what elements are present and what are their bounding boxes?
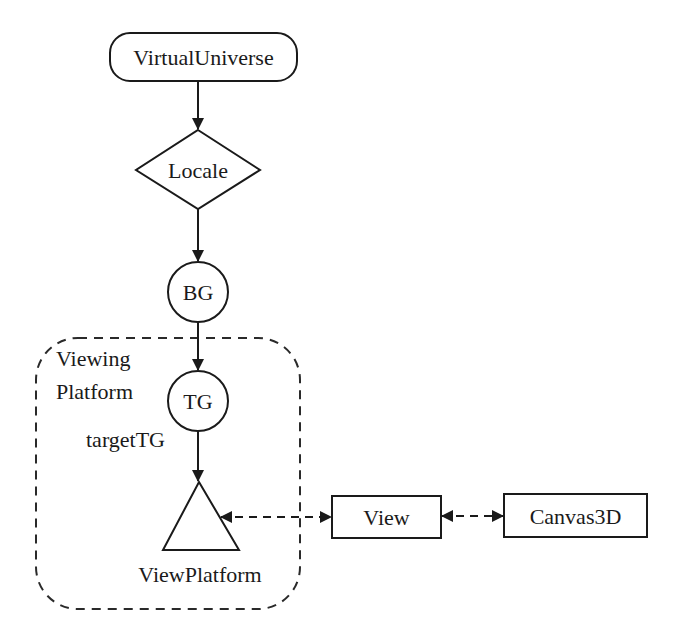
node-bg[interactable]: BG: [168, 262, 228, 322]
tg-label: TG: [183, 389, 212, 414]
node-virtual-universe[interactable]: VirtualUniverse: [110, 33, 297, 81]
bg-label: BG: [183, 280, 214, 305]
target-tg-annotation: targetTG: [86, 427, 165, 452]
node-view[interactable]: View: [332, 496, 441, 538]
scene-graph-diagram: Viewing Platform VirtualUniverse Locale …: [0, 0, 677, 642]
node-view-platform[interactable]: ViewPlatform: [138, 482, 261, 587]
view-platform-label: ViewPlatform: [138, 562, 261, 587]
canvas3d-label: Canvas3D: [530, 504, 622, 529]
node-tg[interactable]: TG: [168, 371, 228, 431]
node-canvas3d[interactable]: Canvas3D: [504, 494, 647, 537]
viewing-platform-label-line2: Platform: [56, 379, 133, 404]
view-label: View: [363, 505, 409, 530]
node-locale[interactable]: Locale: [136, 130, 260, 209]
locale-label: Locale: [168, 158, 228, 183]
viewing-platform-label-line1: Viewing: [56, 346, 130, 371]
virtual-universe-label: VirtualUniverse: [133, 45, 273, 70]
